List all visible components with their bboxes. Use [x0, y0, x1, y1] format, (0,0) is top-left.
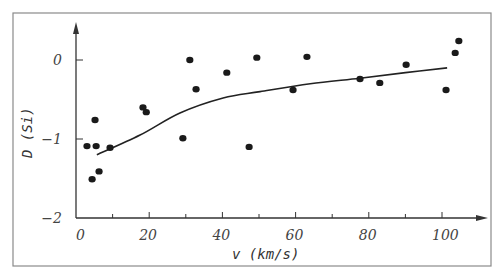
x-tick-label: 40 — [211, 227, 230, 243]
data-point — [89, 176, 96, 182]
data-point — [246, 144, 253, 150]
y-tick-label: −2 — [41, 210, 62, 226]
data-point — [356, 76, 363, 82]
data-point — [179, 135, 186, 141]
data-point — [455, 38, 462, 44]
axes — [73, 22, 488, 221]
y-axis-ticks: 0−1−2 — [41, 52, 83, 226]
y-axis-arrow-icon — [73, 22, 79, 34]
scatter-chart: 020406080100 0−1−2 v (km/s) D (Si) — [0, 0, 502, 279]
data-point — [93, 143, 100, 149]
data-point — [91, 117, 98, 123]
data-point — [106, 144, 113, 150]
data-point — [403, 62, 410, 68]
data-point — [289, 87, 296, 93]
y-tick-label: 0 — [53, 52, 62, 68]
data-point — [143, 109, 150, 115]
data-point — [186, 57, 193, 63]
x-tick-label: 80 — [359, 227, 377, 243]
data-point — [303, 54, 310, 60]
y-axis-label: D (Si) — [19, 107, 35, 159]
x-axis-label: v (km/s) — [232, 246, 299, 262]
data-point — [452, 50, 459, 56]
x-tick-label: 100 — [432, 227, 459, 243]
data-points — [83, 38, 462, 183]
x-axis-arrow-icon — [476, 215, 488, 221]
data-point — [95, 168, 102, 174]
data-point — [223, 69, 230, 75]
x-tick-label: 20 — [138, 227, 157, 243]
data-point — [376, 80, 383, 86]
data-point — [83, 143, 90, 149]
data-point — [192, 86, 199, 92]
x-tick-label: 60 — [286, 227, 304, 243]
y-tick-label: −1 — [41, 131, 62, 147]
x-tick-label: 0 — [76, 227, 85, 243]
data-point — [442, 87, 449, 93]
x-axis-ticks: 020406080100 — [76, 212, 459, 243]
data-point — [253, 54, 260, 60]
